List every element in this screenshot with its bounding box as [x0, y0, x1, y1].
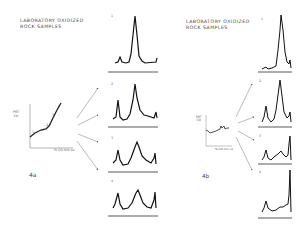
figure: LABORATORY OXIDIZED ROCK SAMPLES LABORAT…: [0, 0, 304, 228]
spectra-4b: [258, 15, 292, 218]
inset-plot-4b: [206, 115, 232, 146]
arrows-4a: [77, 88, 98, 170]
spectra-4a: [108, 16, 158, 216]
arrows-4b: [236, 84, 254, 170]
inset-plot-4a: [30, 103, 73, 148]
figure-graphics: [0, 0, 304, 228]
